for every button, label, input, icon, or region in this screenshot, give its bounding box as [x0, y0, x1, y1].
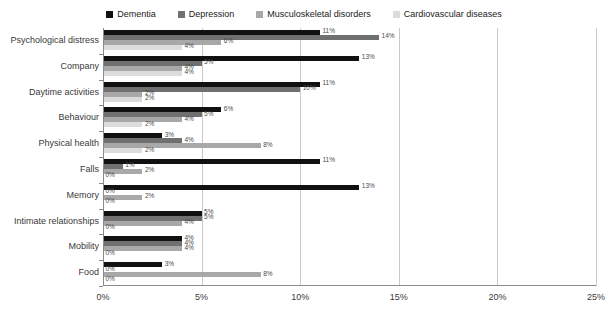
gridline-25% — [596, 28, 597, 286]
bar-value-label: 4% — [184, 245, 193, 252]
bar[interactable] — [103, 185, 359, 190]
bar-value-label: 13% — [362, 183, 375, 190]
x-tick-label: 20% — [488, 292, 506, 302]
bar[interactable] — [103, 148, 142, 153]
bar-value-label: 2% — [145, 193, 154, 200]
legend-label: Cardiovascular diseases — [404, 10, 502, 19]
bar-value-label: 8% — [263, 142, 272, 149]
bar[interactable] — [103, 97, 142, 102]
gridline-5% — [202, 28, 203, 286]
bar-value-label: 4% — [184, 116, 193, 123]
category-label-intimate-relationships: Intimate relationships — [0, 216, 99, 226]
bar-value-label: 0% — [106, 172, 115, 179]
legend-label: Dementia — [117, 10, 156, 19]
bar[interactable] — [103, 45, 182, 50]
bar-value-label: 0% — [106, 250, 115, 257]
bar-value-label: 4% — [184, 43, 193, 50]
bar-chart: DementiaDepressionMusculoskeletal disord… — [0, 0, 608, 322]
bar-value-label: 6% — [224, 106, 233, 113]
bar-value-label: 2% — [145, 167, 154, 174]
category-label-food: Food — [0, 267, 99, 277]
bar-value-label: 2% — [145, 95, 154, 102]
gridline-20% — [497, 28, 498, 286]
legend-swatch-icon — [178, 11, 185, 18]
bar-value-label: 14% — [382, 33, 395, 40]
bar[interactable] — [103, 159, 320, 164]
bar-value-label: 11% — [322, 157, 335, 164]
bar-value-label: 2% — [145, 147, 154, 154]
legend-label: Depression — [189, 10, 235, 19]
bar[interactable] — [103, 272, 261, 277]
category-label-psychological-distress: Psychological distress — [0, 35, 99, 45]
bar-value-label: 0% — [106, 276, 115, 283]
plot-area: 11%14%6%4%13%5%4%4%11%10%2%2%6%5%4%2%3%4… — [103, 28, 596, 286]
bar-value-label: 4% — [184, 69, 193, 76]
x-axis-line — [103, 285, 596, 286]
chart-legend: DementiaDepressionMusculoskeletal disord… — [0, 6, 608, 22]
bar-value-label: 0% — [106, 198, 115, 205]
x-tick-label: 0% — [96, 292, 109, 302]
bar-value-label: 13% — [362, 54, 375, 61]
legend-label: Musculoskeletal disorders — [267, 10, 371, 19]
x-tick-label: 15% — [390, 292, 408, 302]
bar-value-label: 4% — [184, 219, 193, 226]
bar-value-label: 11% — [322, 80, 335, 87]
category-label-company: Company — [0, 61, 99, 71]
bar-value-label: 6% — [224, 38, 233, 45]
legend-item-dementia[interactable]: Dementia — [106, 10, 156, 19]
y-axis-tick — [99, 286, 103, 287]
category-label-daytime-activities: Daytime activities — [0, 87, 99, 97]
category-label-physical-health: Physical health — [0, 138, 99, 148]
bar-value-label: 2% — [145, 121, 154, 128]
bar-value-label: 8% — [263, 271, 272, 278]
bar[interactable] — [103, 71, 182, 76]
bar-value-label: 10% — [303, 85, 316, 92]
legend-swatch-icon — [393, 11, 400, 18]
category-label-mobility: Mobility — [0, 241, 99, 251]
gridline-15% — [399, 28, 400, 286]
legend-item-depression[interactable]: Depression — [178, 10, 235, 19]
y-axis-line — [103, 28, 104, 286]
legend-item-cardiovascular-diseases[interactable]: Cardiovascular diseases — [393, 10, 502, 19]
category-label-memory: Memory — [0, 190, 99, 200]
gridline-10% — [300, 28, 301, 286]
bar-value-label: 3% — [165, 261, 174, 268]
bar-value-label: 5% — [204, 214, 213, 221]
category-label-behaviour: Behaviour — [0, 112, 99, 122]
x-tick-label: 5% — [195, 292, 208, 302]
bar[interactable] — [103, 122, 142, 127]
bar-value-label: 0% — [106, 224, 115, 231]
category-label-falls: Falls — [0, 164, 99, 174]
x-tick-label: 25% — [587, 292, 605, 302]
legend-swatch-icon — [256, 11, 263, 18]
legend-swatch-icon — [106, 11, 113, 18]
x-tick-label: 10% — [291, 292, 309, 302]
legend-item-musculoskeletal-disorders[interactable]: Musculoskeletal disorders — [256, 10, 371, 19]
bar-value-label: 5% — [204, 59, 213, 66]
bar-value-label: 5% — [204, 111, 213, 118]
